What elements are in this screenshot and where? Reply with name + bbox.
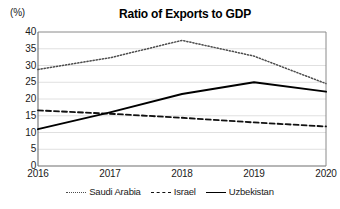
- series-line-saudi-arabia: [38, 40, 326, 83]
- legend-item-uzbekistan[interactable]: Uzbekistan: [206, 186, 274, 198]
- y-tick-label: 20: [10, 94, 36, 104]
- solid-line-icon: [206, 189, 226, 196]
- x-tick-label: 2019: [237, 168, 271, 180]
- x-tick-label: 2020: [309, 168, 340, 180]
- dotted-line-icon: [66, 189, 86, 196]
- dashed-line-icon: [151, 189, 171, 196]
- chart-container: (%) Ratio of Exports to GDP 051015202530…: [0, 0, 340, 209]
- y-tick-label: 25: [10, 77, 36, 87]
- legend-item-saudi-arabia[interactable]: Saudi Arabia: [66, 186, 140, 198]
- legend-label: Saudi Arabia: [89, 186, 140, 198]
- x-axis-ticks: 20162017201820192020: [0, 168, 340, 184]
- gridlines: [38, 32, 326, 149]
- y-tick-label: 10: [10, 128, 36, 138]
- legend-label: Israel: [174, 186, 196, 198]
- y-tick-label: 35: [10, 44, 36, 54]
- y-tick-label: 40: [10, 27, 36, 37]
- y-tick-label: 30: [10, 61, 36, 71]
- x-tick-label: 2018: [165, 168, 199, 180]
- y-tick-label: 15: [10, 111, 36, 121]
- chart-legend: Saudi Arabia Israel Uzbekistan: [0, 186, 340, 198]
- series-line-uzbekistan: [38, 82, 326, 129]
- y-tick-label: 5: [10, 144, 36, 154]
- legend-label: Uzbekistan: [229, 186, 274, 198]
- legend-item-israel[interactable]: Israel: [151, 186, 196, 198]
- x-tick-label: 2016: [21, 168, 55, 180]
- x-tick-label: 2017: [93, 168, 127, 180]
